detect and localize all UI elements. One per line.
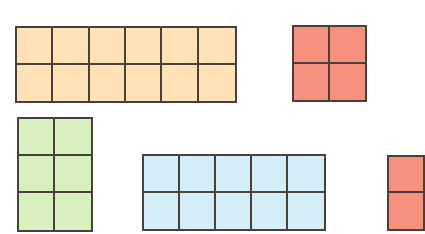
- grid-cell: [162, 65, 198, 102]
- grid-cell: [144, 156, 180, 193]
- grid-cell: [90, 65, 126, 102]
- grid-cell: [180, 156, 216, 193]
- grid-cell: [144, 193, 180, 230]
- grid-cell: [216, 193, 252, 230]
- grid-cell: [53, 28, 89, 65]
- grid-cell: [252, 156, 288, 193]
- red-array: [292, 25, 367, 102]
- grid-cell: [19, 156, 55, 193]
- grid-cell: [294, 27, 330, 64]
- grid-cell: [17, 28, 53, 65]
- grid-cell: [389, 157, 423, 193]
- grid-cell: [180, 193, 216, 230]
- grid-cell: [288, 193, 324, 230]
- grid-cell: [19, 119, 55, 156]
- grid-cell: [294, 64, 330, 101]
- green-array: [17, 117, 93, 232]
- grid-cell: [216, 156, 252, 193]
- grid-cell: [55, 193, 91, 230]
- grid-cell: [55, 119, 91, 156]
- grid-cell: [17, 65, 53, 102]
- grid-cell: [162, 28, 198, 65]
- red-array-partial: [387, 155, 425, 231]
- grid-cell: [330, 64, 366, 101]
- blue-array: [142, 154, 326, 231]
- grid-cell: [55, 156, 91, 193]
- grid-cell: [19, 193, 55, 230]
- grid-cell: [126, 28, 162, 65]
- grid-cell: [199, 65, 235, 102]
- grid-cell: [288, 156, 324, 193]
- grid-cell: [90, 28, 126, 65]
- grid-cell: [330, 27, 366, 64]
- orange-array: [15, 26, 237, 103]
- grid-cell: [252, 193, 288, 230]
- grid-cell: [389, 193, 423, 229]
- grid-cell: [126, 65, 162, 102]
- grid-cell: [199, 28, 235, 65]
- grid-cell: [53, 65, 89, 102]
